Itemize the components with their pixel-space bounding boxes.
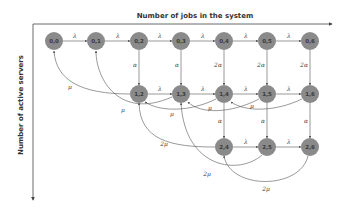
svg-text:λ: λ xyxy=(286,32,291,39)
svg-text:1,3: 1,3 xyxy=(176,91,186,97)
svg-text:λ: λ xyxy=(157,32,162,39)
svg-text:μ: μ xyxy=(170,110,174,118)
svg-text:μ: μ xyxy=(68,83,72,91)
x-axis-label: Number of jobs in the system xyxy=(137,12,254,20)
svg-text:1,4: 1,4 xyxy=(219,91,229,97)
svg-text:2α: 2α xyxy=(256,61,265,68)
svg-text:0,6: 0,6 xyxy=(305,38,315,44)
svg-text:μ: μ xyxy=(208,104,212,112)
state-node-2-6: 2,6 xyxy=(301,138,319,156)
svg-text:λ: λ xyxy=(243,85,248,92)
svg-text:λ: λ xyxy=(286,138,291,145)
svg-text:2,6: 2,6 xyxy=(305,144,315,150)
state-node-0-1: 0,1 xyxy=(87,32,105,50)
svg-text:2μ: 2μ xyxy=(159,140,168,148)
svg-text:μ: μ xyxy=(250,102,254,110)
svg-text:2μ: 2μ xyxy=(202,170,211,178)
svg-text:2μ: 2μ xyxy=(261,185,270,193)
svg-text:λ: λ xyxy=(157,85,162,92)
row1-to-row2-setup-edges: α α α xyxy=(218,103,310,138)
state-node-0-0: 0,0 xyxy=(45,32,63,50)
svg-text:0,4: 0,4 xyxy=(219,38,229,44)
svg-text:0,3: 0,3 xyxy=(176,38,186,44)
state-node-1-5: 1,5 xyxy=(258,85,276,103)
svg-text:0,1: 0,1 xyxy=(91,38,101,44)
state-node-1-3: 1,3 xyxy=(172,85,190,103)
svg-text:λ: λ xyxy=(243,32,248,39)
svg-text:2α: 2α xyxy=(213,61,222,68)
svg-text:α: α xyxy=(304,117,308,124)
svg-text:λ: λ xyxy=(200,32,205,39)
state-node-1-2: 1,2 xyxy=(130,85,148,103)
state-node-1-4: 1,4 xyxy=(215,85,233,103)
svg-text:1,5: 1,5 xyxy=(262,91,272,97)
state-node-0-6: 0,6 xyxy=(301,32,319,50)
state-node-1-6: 1,6 xyxy=(301,85,319,103)
state-node-0-5: 0,5 xyxy=(258,32,276,50)
svg-text:2α: 2α xyxy=(299,61,308,68)
svg-text:0,0: 0,0 xyxy=(49,38,59,44)
svg-text:2,4: 2,4 xyxy=(219,144,229,150)
svg-text:μ: μ xyxy=(121,106,125,114)
svg-text:α: α xyxy=(133,61,137,68)
svg-text:α: α xyxy=(261,117,265,124)
state-transition-diagram: Number of jobs in the system Number of a… xyxy=(0,0,347,209)
svg-text:λ: λ xyxy=(115,32,120,39)
state-node-0-2: 0,2 xyxy=(130,32,148,50)
svg-text:0,5: 0,5 xyxy=(262,38,272,44)
svg-text:λ: λ xyxy=(286,85,291,92)
svg-text:α: α xyxy=(175,61,179,68)
svg-text:0,2: 0,2 xyxy=(134,38,144,44)
state-node-0-4: 0,4 xyxy=(215,32,233,50)
state-node-0-3: 0,3 xyxy=(172,32,190,50)
svg-text:1,6: 1,6 xyxy=(305,91,315,97)
svg-text:λ: λ xyxy=(243,138,248,145)
svg-text:α: α xyxy=(218,117,222,124)
svg-text:1,2: 1,2 xyxy=(134,91,144,97)
row0-to-row1-setup-edges: α α 2α 2α 2α xyxy=(133,50,310,85)
state-node-2-4: 2,4 xyxy=(215,138,233,156)
svg-text:λ: λ xyxy=(200,85,205,92)
y-axis-label: Number of active servers xyxy=(17,55,25,155)
svg-text:2,5: 2,5 xyxy=(262,144,272,150)
state-node-2-5: 2,5 xyxy=(258,138,276,156)
svg-text:λ: λ xyxy=(72,32,77,39)
